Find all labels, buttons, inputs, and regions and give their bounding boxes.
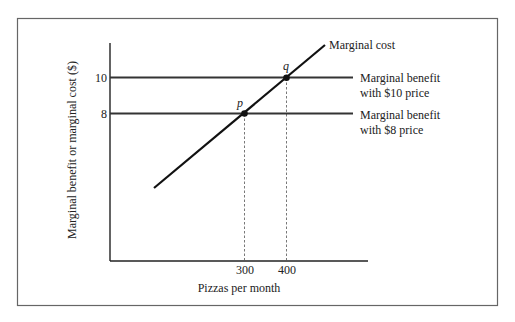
marginal-analysis-chart: p q 10 8 300 400 Pizzas per month Margin… bbox=[0, 0, 515, 322]
point-q-marker bbox=[283, 75, 290, 82]
y-axis-label: Marginal benefit or marginal cost ($) bbox=[65, 61, 79, 239]
mb8-label-line2: with $8 price bbox=[360, 123, 423, 137]
figure-frame bbox=[18, 19, 498, 306]
x-axis-label: Pizzas per month bbox=[198, 281, 281, 295]
xtick-400: 400 bbox=[278, 263, 296, 277]
point-p-marker bbox=[241, 110, 248, 117]
point-p-label: p bbox=[236, 96, 243, 110]
point-q-label: q bbox=[283, 59, 289, 73]
xtick-300: 300 bbox=[236, 263, 254, 277]
ytick-10: 10 bbox=[95, 71, 107, 85]
mc-label: Marginal cost bbox=[329, 38, 396, 52]
mb10-label-line1: Marginal benefit bbox=[360, 71, 441, 85]
mc-line bbox=[154, 45, 325, 188]
mb10-label-line2: with $10 price bbox=[360, 86, 429, 100]
mb8-label-line1: Marginal benefit bbox=[360, 108, 441, 122]
ytick-8: 8 bbox=[101, 107, 107, 121]
